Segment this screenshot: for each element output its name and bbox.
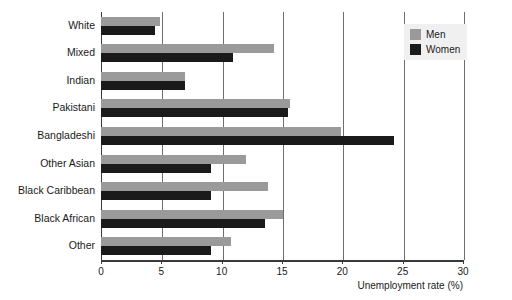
bar-women: [101, 191, 211, 200]
legend-swatch-women-icon: [410, 44, 421, 55]
category-label: White: [68, 20, 95, 31]
bar-women: [101, 246, 211, 255]
x-tick-mark-25: [403, 260, 404, 264]
x-tick-label-25: 25: [397, 266, 408, 277]
bar-women: [101, 219, 265, 228]
bar-women: [101, 136, 394, 145]
category-label: Indian: [66, 75, 95, 86]
category-group: Other: [0, 232, 512, 260]
unemployment-rate-bar-chart: WhiteMixedIndianPakistaniBangladeshiOthe…: [0, 0, 512, 300]
bar-men: [101, 99, 290, 108]
category-group: Black Caribbean: [0, 177, 512, 205]
x-tick-label-15: 15: [276, 266, 287, 277]
bar-women: [101, 81, 185, 90]
bar-men: [101, 182, 268, 191]
x-tick-mark-15: [282, 260, 283, 264]
bar-women: [101, 164, 211, 173]
x-tick-mark-30: [463, 260, 464, 264]
x-tick-label-30: 30: [457, 266, 468, 277]
category-group: Pakistani: [0, 95, 512, 123]
x-tick-label-20: 20: [337, 266, 348, 277]
bar-men: [101, 155, 246, 164]
category-label: Other Asian: [40, 158, 95, 169]
bar-men: [101, 127, 341, 136]
bar-men: [101, 17, 160, 26]
legend-label-men: Men: [426, 29, 445, 40]
x-tick-mark-20: [342, 260, 343, 264]
chart-legend: Men Women: [404, 24, 467, 60]
category-group: Bangladeshi: [0, 122, 512, 150]
x-axis-title: Unemployment rate (%): [357, 280, 463, 291]
category-label: Other: [69, 240, 95, 251]
category-label: Black Caribbean: [18, 185, 95, 196]
x-tick-label-0: 0: [98, 266, 104, 277]
bar-women: [101, 53, 233, 62]
legend-label-women: Women: [426, 44, 460, 55]
category-group: Black African: [0, 205, 512, 233]
bar-men: [101, 44, 274, 53]
bar-men: [101, 210, 283, 219]
category-label: Black African: [34, 213, 95, 224]
legend-item-women: Women: [410, 44, 460, 55]
category-label: Bangladeshi: [37, 130, 95, 141]
category-label: Mixed: [67, 47, 95, 58]
bar-women: [101, 108, 288, 117]
bar-men: [101, 237, 231, 246]
x-tick-label-10: 10: [216, 266, 227, 277]
legend-item-men: Men: [410, 29, 460, 40]
legend-swatch-men-icon: [410, 29, 421, 40]
x-tick-label-5: 5: [159, 266, 165, 277]
x-tick-mark-10: [222, 260, 223, 264]
bar-women: [101, 26, 155, 35]
bar-men: [101, 72, 185, 81]
category-group: Other Asian: [0, 150, 512, 178]
x-tick-mark-5: [161, 260, 162, 264]
category-label: Pakistani: [52, 102, 95, 113]
category-group: Indian: [0, 67, 512, 95]
x-tick-mark-0: [101, 260, 102, 264]
